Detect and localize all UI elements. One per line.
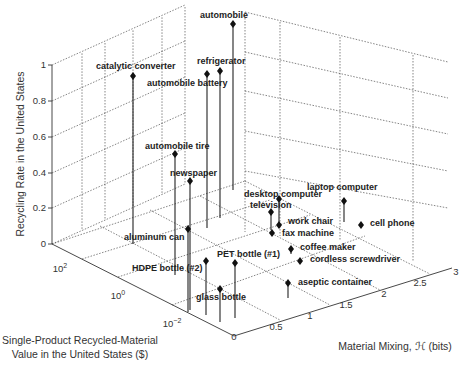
- diamond-marker-icon: [288, 245, 294, 253]
- point-label: glass bottle: [196, 292, 246, 302]
- point-label: automobile battery: [147, 78, 228, 88]
- x-tick-label: 0.5: [269, 321, 282, 332]
- grid-line: [245, 91, 448, 134]
- data-point[interactable]: cell phone: [358, 218, 415, 229]
- diamond-marker-icon: [203, 257, 209, 265]
- z-axis-label: Recycling Rate in the United States: [14, 71, 26, 236]
- x-tick-label: 1.5: [339, 299, 352, 310]
- x-axis-label: Material Mixing, ℋ (bits): [338, 340, 452, 352]
- data-point[interactable]: cordless screwdriver: [297, 254, 401, 265]
- data-point[interactable]: glass bottle: [196, 285, 246, 322]
- y-tick-label: 10−2: [163, 317, 182, 329]
- diamond-marker-icon: [358, 221, 364, 229]
- point-label: fax machine: [282, 228, 334, 238]
- point-label: refrigerator: [197, 56, 246, 66]
- diamond-marker-icon: [269, 229, 275, 237]
- diamond-marker-icon: [232, 259, 238, 267]
- data-point[interactable]: fax machine: [269, 228, 334, 238]
- z-tick-label: 0.2: [33, 202, 46, 213]
- diamond-marker-icon: [130, 72, 136, 80]
- chart-3d-stem-plot: 10.80.60.40.20 10210010−2 00.511.522.53 …: [0, 0, 468, 368]
- y-tick-label: 100: [111, 289, 126, 301]
- x-tick-label: 2.5: [413, 277, 426, 288]
- z-tick-label: 0.4: [33, 167, 46, 178]
- grid-line: [52, 5, 185, 65]
- y-axis-label-line2: Value in the United States ($): [12, 348, 148, 360]
- diamond-marker-icon: [285, 279, 291, 287]
- point-label: work chair: [287, 216, 334, 226]
- x-tick-label: 2: [381, 288, 386, 299]
- point-label: PET bottle (#1): [217, 249, 280, 259]
- point-label: cell phone: [370, 218, 415, 228]
- point-label: aluminum can: [124, 232, 185, 242]
- point-label: newspaper: [170, 168, 218, 178]
- data-point[interactable]: coffee maker: [288, 242, 356, 254]
- grid-line: [52, 148, 185, 208]
- point-label: automobile: [200, 10, 248, 20]
- diamond-marker-icon: [187, 177, 193, 185]
- z-tick-label: 0: [41, 238, 46, 249]
- point-label: television: [250, 200, 292, 210]
- point-label: laptop computer: [307, 182, 378, 192]
- point-label: coffee maker: [300, 242, 356, 252]
- point-label: automobile tire: [145, 141, 210, 151]
- point-label: aseptic container: [298, 277, 373, 287]
- z-tick-label: 0.8: [33, 95, 46, 106]
- grid-line: [245, 52, 448, 98]
- x-tick-label: 3: [453, 266, 458, 277]
- grid-line: [245, 131, 448, 171]
- point-label: catalytic converter: [96, 61, 176, 71]
- grid-line: [245, 12, 448, 62]
- diamond-marker-icon: [172, 150, 178, 158]
- grid-line: [52, 41, 185, 101]
- z-tick-label: 1: [41, 59, 46, 70]
- y-axis-label-line1: Single-Product Recycled-Material: [2, 334, 158, 346]
- gridlines: [52, 5, 448, 320]
- point-label: cordless screwdriver: [310, 254, 401, 264]
- data-point[interactable]: automobile tire: [145, 141, 210, 275]
- y-axis-line: [52, 244, 234, 336]
- diamond-marker-icon: [341, 197, 347, 205]
- data-point[interactable]: PET bottle (#1): [217, 249, 280, 318]
- x-tick-label: 1: [307, 310, 312, 321]
- diamond-marker-icon: [230, 20, 236, 28]
- diamond-marker-icon: [204, 70, 210, 78]
- diamond-marker-icon: [217, 67, 223, 75]
- y-tick-label: 102: [53, 262, 68, 274]
- z-axis-ticks: 10.80.60.40.20: [33, 59, 52, 249]
- data-point[interactable]: aseptic container: [285, 277, 373, 298]
- data-point[interactable]: HDPE bottle (#2): [132, 257, 209, 315]
- point-label: HDPE bottle (#2): [132, 263, 203, 273]
- z-tick-label: 0.6: [33, 131, 46, 142]
- x-tick-label: 0: [231, 331, 236, 342]
